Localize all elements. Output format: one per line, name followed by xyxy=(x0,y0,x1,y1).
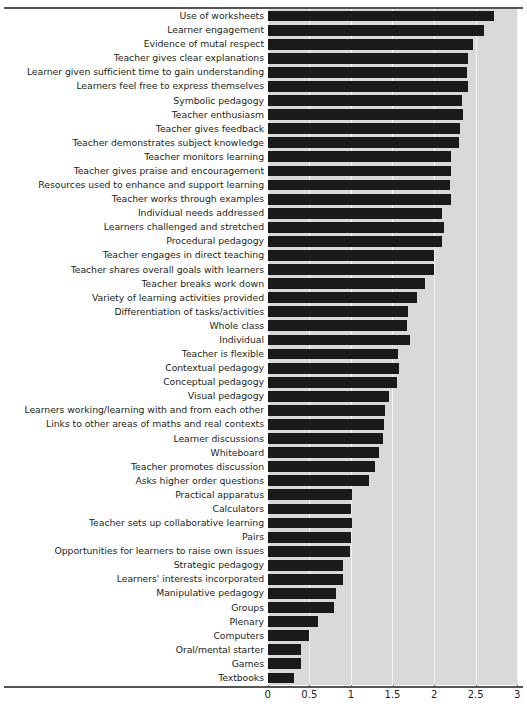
category-label: Learners feel free to express themselves xyxy=(76,79,264,93)
bar-chart: Use of worksheetsLearner engagementEvide… xyxy=(0,0,527,717)
bar xyxy=(268,292,417,303)
x-tick-label: 2 xyxy=(431,688,437,702)
bar xyxy=(268,208,442,219)
x-tick-label: 1 xyxy=(348,688,354,702)
category-label: Learner discussions xyxy=(173,432,264,446)
bar-row: Conceptual pedagogy xyxy=(0,375,527,389)
bar xyxy=(268,574,344,585)
category-label: Teacher gives praise and encouragement xyxy=(74,164,264,178)
category-label: Pairs xyxy=(242,530,264,544)
x-tick-label: 2.5 xyxy=(468,688,484,702)
bar xyxy=(268,194,451,205)
bar-row: Pairs xyxy=(0,530,527,544)
bar-row: Learner engagement xyxy=(0,23,527,37)
category-label: Practical apparatus xyxy=(175,488,264,502)
bar-row: Contextual pedagogy xyxy=(0,361,527,375)
bar xyxy=(268,137,459,148)
category-label: Variety of learning activities provided xyxy=(92,291,264,305)
category-label: Differentiation of tasks/activities xyxy=(114,305,264,319)
bar-row: Individual needs addressed xyxy=(0,206,527,220)
category-label: Teacher breaks work down xyxy=(142,277,264,291)
x-tick-label: 0 xyxy=(265,688,271,702)
bar-row: Strategic pedagogy xyxy=(0,558,527,572)
category-label: Games xyxy=(232,657,264,671)
category-label: Visual pedagogy xyxy=(188,389,264,403)
bar-row: Teacher monitors learning xyxy=(0,150,527,164)
bar xyxy=(268,306,409,317)
bar xyxy=(268,67,468,78)
bar-row: Games xyxy=(0,657,527,671)
category-label: Whole class xyxy=(209,319,264,333)
bar-row: Whole class xyxy=(0,319,527,333)
bar-row: Plenary xyxy=(0,615,527,629)
bar-row: Procedural pedagogy xyxy=(0,234,527,248)
category-label: Individual needs addressed xyxy=(138,206,264,220)
bar-row: Teacher works through examples xyxy=(0,192,527,206)
bar-row: Computers xyxy=(0,629,527,643)
bar xyxy=(268,39,474,50)
bar-row: Teacher is flexible xyxy=(0,347,527,361)
bar-row: Learner given sufficient time to gain un… xyxy=(0,65,527,79)
bar xyxy=(268,349,399,360)
bar xyxy=(268,546,350,557)
category-label: Whiteboard xyxy=(211,446,264,460)
category-label: Teacher works through examples xyxy=(112,192,264,206)
bar-row: Learners working/learning with and from … xyxy=(0,403,527,417)
category-label: Strategic pedagogy xyxy=(174,558,264,572)
bar-row: Visual pedagogy xyxy=(0,389,527,403)
bar-row: Groups xyxy=(0,601,527,615)
category-label: Teacher shares overall goals with learne… xyxy=(71,263,264,277)
bar-row: Resources used to enhance and support le… xyxy=(0,178,527,192)
bar xyxy=(268,278,425,289)
bar xyxy=(268,250,434,261)
bar xyxy=(268,630,310,641)
bar-row: Learners feel free to express themselves xyxy=(0,79,527,93)
category-label: Teacher monitors learning xyxy=(144,150,264,164)
category-label: Teacher gives feedback xyxy=(156,122,264,136)
category-label: Evidence of mutal respect xyxy=(144,37,264,51)
category-label: Resources used to enhance and support le… xyxy=(38,178,264,192)
bar-row: Teacher gives clear explanations xyxy=(0,51,527,65)
bar-row: Teacher engages in direct teaching xyxy=(0,248,527,262)
category-label: Learner engagement xyxy=(167,23,264,37)
bar xyxy=(268,489,352,500)
category-label: Calculators xyxy=(212,502,264,516)
bar-row: Calculators xyxy=(0,502,527,516)
bar-row: Oral/mental starter xyxy=(0,643,527,657)
category-label: Opportunities for learners to raise own … xyxy=(55,544,265,558)
bar xyxy=(268,81,469,92)
bar xyxy=(268,335,410,346)
bar-row: Teacher gives praise and encouragement xyxy=(0,164,527,178)
bar-row: Learners' interests incorporated xyxy=(0,572,527,586)
bar xyxy=(268,644,301,655)
bar-row: Teacher demonstrates subject knowledge xyxy=(0,136,527,150)
bar-row: Asks higher order questions xyxy=(0,474,527,488)
category-label: Procedural pedagogy xyxy=(166,234,264,248)
category-label: Learners challenged and stretched xyxy=(104,220,264,234)
category-label: Teacher demonstrates subject knowledge xyxy=(72,136,264,150)
category-label: Use of worksheets xyxy=(179,9,264,23)
x-tick-label: 3 xyxy=(514,688,520,702)
bar xyxy=(268,53,469,64)
category-label: Teacher is flexible xyxy=(182,347,264,361)
bar xyxy=(268,461,375,472)
bar-row: Teacher breaks work down xyxy=(0,277,527,291)
bar-row: Manipulative pedagogy xyxy=(0,586,527,600)
category-label: Teacher sets up collaborative learning xyxy=(89,516,264,530)
category-label: Symbolic pedagogy xyxy=(173,94,264,108)
bar-row: Whiteboard xyxy=(0,446,527,460)
bar xyxy=(268,180,450,191)
category-label: Manipulative pedagogy xyxy=(156,586,264,600)
bar xyxy=(268,518,352,529)
bar-row: Opportunities for learners to raise own … xyxy=(0,544,527,558)
bar xyxy=(268,109,464,120)
bar xyxy=(268,602,335,613)
bar xyxy=(268,25,484,36)
bar xyxy=(268,151,451,162)
bar xyxy=(268,320,408,331)
bar xyxy=(268,504,351,515)
bar xyxy=(268,166,451,177)
category-label: Teacher enthusiasm xyxy=(172,108,264,122)
bar xyxy=(268,95,462,106)
category-label: Contextual pedagogy xyxy=(165,361,264,375)
